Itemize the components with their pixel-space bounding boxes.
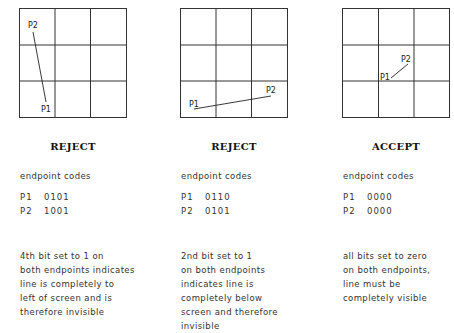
verdict-label: REJECT [180, 141, 288, 152]
endpoint-codes-title: endpoint codes [181, 171, 252, 181]
p1-label: P1 [189, 100, 199, 109]
panel-inside-accept: P1 P2 ACCEPT endpoint codes P10000 P2000… [300, 0, 450, 323]
point-name: P2 [20, 206, 44, 216]
code-row-p2: P20000 [343, 206, 393, 216]
point-code: 1001 [44, 206, 70, 216]
point-name: P2 [181, 206, 205, 216]
verdict-label: ACCEPT [342, 141, 450, 152]
line-segment [391, 64, 408, 78]
p2-label: P2 [28, 21, 38, 30]
line-segment [194, 96, 271, 109]
panel-below-reject: P1 P2 REJECT endpoint codes P10110 P2010… [150, 0, 300, 323]
p2-label: P2 [266, 86, 276, 95]
line-segment [33, 32, 46, 102]
p1-label: P1 [41, 105, 51, 114]
clipping-grid-diagram: P1 P2 [150, 0, 310, 130]
description: 2nd bit set to 1 on both endpoints indic… [181, 249, 278, 333]
point-code: 0101 [44, 192, 70, 202]
description: all bits set to zero on both endpoints, … [343, 249, 430, 305]
panel-left-reject: P2 P1 REJECT endpoint codes P10101 P2100… [0, 0, 150, 323]
point-code: 0000 [367, 192, 393, 202]
code-row-p1: P10000 [343, 192, 393, 202]
p1-label: P1 [380, 73, 390, 82]
code-row-p2: P21001 [20, 206, 70, 216]
endpoint-codes-title: endpoint codes [20, 171, 91, 181]
point-name: P1 [20, 192, 44, 202]
verdict-label: REJECT [19, 141, 127, 152]
clipping-grid-diagram: P1 P2 [300, 0, 454, 130]
code-row-p1: P10101 [20, 192, 70, 202]
point-code: 0000 [367, 206, 393, 216]
description: 4th bit set to 1 on both endpoints indic… [20, 249, 135, 319]
clipping-grid-diagram: P2 P1 [0, 0, 150, 130]
point-name: P1 [343, 192, 367, 202]
point-code: 0101 [205, 206, 231, 216]
point-name: P1 [181, 192, 205, 202]
endpoint-codes-title: endpoint codes [343, 171, 414, 181]
point-code: 0110 [205, 192, 231, 202]
code-row-p2: P20101 [181, 206, 231, 216]
code-row-p1: P10110 [181, 192, 231, 202]
p2-label: P2 [401, 55, 411, 64]
point-name: P2 [343, 206, 367, 216]
